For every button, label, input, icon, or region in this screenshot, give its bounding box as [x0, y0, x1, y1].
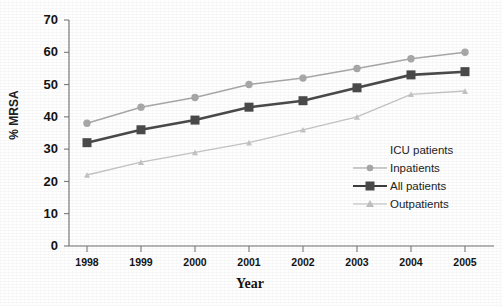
x-tick-label: 2002: [280, 256, 326, 268]
y-tick-label: 70: [32, 15, 58, 25]
legend-row-inpatients[interactable]: Inpatients: [352, 159, 500, 177]
legend-row-outpatients[interactable]: Outpatients: [352, 195, 500, 213]
x-tick-label: 1999: [118, 256, 164, 268]
x-tick-label: 2001: [226, 256, 272, 268]
x-tick-label: 2003: [334, 256, 380, 268]
legend-label: All patients: [388, 180, 446, 192]
x-tick-label: 2004: [388, 256, 434, 268]
circle-marker-icon: [352, 160, 388, 176]
legend-row-icu-patients[interactable]: ICU patients: [352, 141, 500, 159]
y-tick-label: 10: [32, 209, 58, 219]
series-inpatients: [83, 49, 468, 127]
legend-label: ICU patients: [388, 144, 453, 156]
legend-label: Outpatients: [388, 198, 449, 210]
chart-figure: % MRSA: [0, 0, 502, 306]
x-tick-label: 2000: [172, 256, 218, 268]
y-tick-label: 20: [32, 177, 58, 187]
legend-row-all-patients[interactable]: All patients: [352, 177, 500, 195]
y-axis-ticks: [64, 20, 69, 246]
triangle-marker-icon: [352, 196, 388, 212]
square-marker-icon: [352, 178, 388, 194]
x-tick-label: 1998: [64, 256, 110, 268]
y-tick-label: 30: [32, 144, 58, 154]
y-tick-label: 0: [32, 241, 58, 251]
chart-legend: ICU patients Inpatients All patients: [352, 141, 500, 213]
y-tick-label: 40: [32, 112, 58, 122]
legend-label: Inpatients: [388, 162, 440, 174]
legend-marker-none: [352, 142, 388, 158]
x-tick-label: 2005: [442, 256, 488, 268]
x-axis-ticks: [87, 246, 465, 252]
x-axis-title: Year: [190, 276, 310, 292]
y-tick-label: 60: [32, 47, 58, 57]
y-tick-label: 50: [32, 80, 58, 90]
